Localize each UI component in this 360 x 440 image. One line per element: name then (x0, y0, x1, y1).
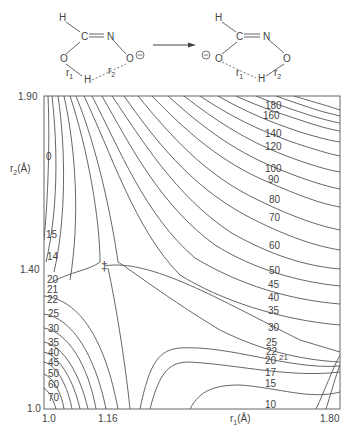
contour-plot: ‡ 1.90 1.40 1.0 1.0 1.16 1.80 r2(Å) r1(Å… (10, 91, 340, 426)
contour-label: 70 (48, 392, 60, 403)
contour-label: 70 (269, 212, 281, 223)
x-tick-1.16: 1.16 (98, 413, 118, 424)
x-tick-1.0: 1.0 (42, 413, 56, 424)
contour-label: 21 (279, 353, 288, 362)
atom-o-left: O (60, 53, 68, 64)
contour-label: 100 (265, 163, 282, 174)
contour-label: 0 (46, 151, 52, 162)
figure: H C N O O H r1 r2 H C N O (0, 0, 360, 440)
atom-h: H (215, 12, 222, 23)
contour-label: 25 (48, 308, 60, 319)
contour-label: 22 (47, 294, 59, 305)
atom-h-bridge: H (84, 74, 91, 85)
contour-label: 80 (269, 194, 281, 205)
contour-label: 20 (265, 355, 277, 366)
reactant-structure: H C N O O H r1 r2 (59, 12, 144, 85)
contour-lines (44, 96, 340, 409)
contour-label: 10 (265, 399, 277, 410)
contour-label: 50 (269, 265, 281, 276)
atom-o-left: O (215, 53, 223, 64)
contour-label: 40 (268, 292, 280, 303)
contour-label: 60 (269, 240, 281, 251)
y-tick-1.0: 1.0 (27, 403, 41, 414)
contour-label: 17 (265, 367, 277, 378)
x-axis-label: r1(Å) (230, 412, 251, 426)
y-tick-1.40: 1.40 (20, 264, 40, 275)
contour-label: 30 (48, 323, 60, 334)
r2-label: r2 (274, 67, 281, 80)
contour-label: 90 (268, 174, 280, 185)
atom-h-bridge: H (258, 73, 265, 84)
y-tick-1.90: 1.90 (18, 91, 38, 102)
r2-label: r2 (108, 65, 115, 78)
product-structure: H C N O O H r1 r2 (202, 12, 291, 84)
atom-c: C (236, 31, 243, 42)
contour-label: 45 (268, 279, 280, 290)
saddle-point-marker: ‡ (101, 259, 108, 273)
x-tick-1.80: 1.80 (320, 413, 340, 424)
contour-label: 15 (46, 229, 58, 240)
contour-label: 14 (47, 251, 59, 262)
contour-label: 35 (268, 305, 280, 316)
y-axis-label: r2(Å) (10, 162, 31, 176)
atom-o-right: O (126, 53, 134, 64)
contour-label: 30 (268, 322, 280, 333)
contour-label: 140 (265, 128, 282, 139)
atom-o-right: O (283, 53, 291, 64)
contour-label: 15 (265, 378, 277, 389)
contour-label: 120 (265, 141, 282, 152)
reaction-arrow-icon (153, 43, 196, 48)
contour-label: 160 (263, 110, 280, 121)
contour-label: 60 (48, 379, 60, 390)
left-contour-labels: 0 15 14 20 21 22 25 30 35 40 45 50 60 70 (46, 151, 60, 403)
contour-label: 45 (48, 357, 60, 368)
right-contour-labels: 180 160 140 120 100 90 80 70 60 50 45 40… (263, 100, 288, 410)
atom-c: C (81, 31, 88, 42)
reaction-scheme: H C N O O H r1 r2 H C N O (59, 12, 291, 85)
contour-label: 50 (48, 368, 60, 379)
atom-h: H (59, 12, 66, 23)
r1-label: r1 (236, 67, 243, 80)
